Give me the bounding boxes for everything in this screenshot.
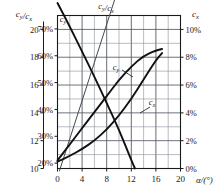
ticklabel-right: 10% bbox=[186, 25, 202, 35]
annotation-cy: cy bbox=[113, 62, 120, 73]
chart-figure: 10121416182020%30%40%50%60%70%0%2%4%6%8%… bbox=[0, 0, 223, 192]
ticklabel-right: 2% bbox=[186, 136, 197, 146]
annotation-cx: cx bbox=[149, 97, 156, 108]
ticklabel-x: 0 bbox=[55, 174, 60, 184]
ticklabel-x: 20 bbox=[176, 174, 186, 184]
ticklabel-left-inner: 50% bbox=[37, 78, 53, 88]
ticklabel-x: 12 bbox=[127, 174, 136, 184]
ticklabel-right: 0% bbox=[186, 164, 197, 174]
curve-cy bbox=[58, 49, 163, 160]
chart-svg: 10121416182020%30%40%50%60%70%0%2%4%6%8%… bbox=[0, 0, 223, 192]
ticklabel-left-inner: 40% bbox=[37, 105, 53, 115]
ticklabel-right: 6% bbox=[186, 80, 197, 90]
annotation-cy-cx: cy/cx bbox=[98, 1, 114, 14]
ticklabel-left-inner: 60% bbox=[37, 51, 53, 61]
ticklabel-right: 8% bbox=[186, 52, 197, 62]
ticklabel-left-inner: 30% bbox=[37, 131, 53, 141]
axis-title-x: α/(°) bbox=[196, 175, 213, 185]
ticklabel-left-inner: 20% bbox=[37, 158, 53, 168]
axis-title-left-outer: cy/cx bbox=[16, 9, 32, 22]
ticklabel-x: 16 bbox=[151, 174, 161, 184]
axis-title-right: cx bbox=[192, 9, 199, 20]
ticklabel-x: 4 bbox=[80, 174, 85, 184]
ticklabel-left-inner: 70% bbox=[37, 24, 53, 34]
ticklabel-right: 4% bbox=[186, 108, 197, 118]
curve-cx bbox=[58, 53, 163, 162]
leader-cx bbox=[140, 107, 150, 113]
ticklabel-x: 8 bbox=[104, 174, 109, 184]
